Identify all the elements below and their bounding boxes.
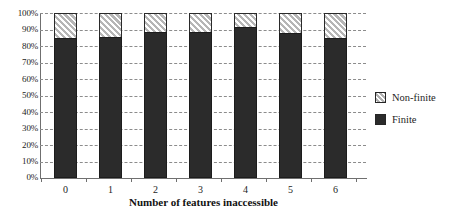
legend-label-nonfinite: Non-finite xyxy=(392,92,436,103)
y-tick-label: 40% xyxy=(2,108,38,117)
x-tick-label: 0 xyxy=(54,184,78,195)
x-tick-label: 1 xyxy=(99,184,123,195)
y-tick-label: 70% xyxy=(2,58,38,67)
bar-segment-finite[interactable] xyxy=(234,27,257,178)
bar-segment-nonfinite[interactable] xyxy=(144,13,167,33)
y-tick-label: 20% xyxy=(2,141,38,150)
x-tick-label: 3 xyxy=(189,184,213,195)
x-tick-label: 4 xyxy=(234,184,258,195)
y-tick-label: 80% xyxy=(2,42,38,51)
bar-segment-nonfinite[interactable] xyxy=(324,13,347,39)
bar-segment-finite[interactable] xyxy=(189,32,212,178)
plot-area xyxy=(40,13,366,178)
y-tick-label: 10% xyxy=(2,157,38,166)
bar-segment-nonfinite[interactable] xyxy=(99,13,122,38)
y-tick-label: 60% xyxy=(2,75,38,84)
legend-swatch-nonfinite-icon xyxy=(375,92,386,103)
x-axis-title: Number of features inaccessible xyxy=(40,196,367,208)
bar-segment-nonfinite[interactable] xyxy=(234,13,257,28)
x-tick-label: 5 xyxy=(279,184,303,195)
legend-item-finite[interactable]: Finite xyxy=(375,108,465,130)
x-tick-mark xyxy=(41,178,42,182)
x-tick-label: 2 xyxy=(144,184,168,195)
x-tick-mark xyxy=(86,178,87,182)
y-tick-label: 90% xyxy=(2,25,38,34)
x-tick-mark xyxy=(176,178,177,182)
bar-segment-finite[interactable] xyxy=(99,37,122,178)
legend-swatch-finite-icon xyxy=(375,114,386,125)
y-tick-label: 50% xyxy=(2,91,38,100)
y-tick-label: 30% xyxy=(2,124,38,133)
x-tick-mark xyxy=(131,178,132,182)
x-tick-mark xyxy=(311,178,312,182)
y-tick-label: 100% xyxy=(2,9,38,18)
y-tick-label: 0% xyxy=(2,173,38,182)
legend-label-finite: Finite xyxy=(392,114,417,125)
bar-segment-finite[interactable] xyxy=(54,38,77,178)
bar-segment-finite[interactable] xyxy=(144,32,167,178)
x-tick-mark xyxy=(221,178,222,182)
x-tick-mark xyxy=(266,178,267,182)
x-axis-line xyxy=(40,178,367,179)
bar-segment-finite[interactable] xyxy=(324,38,347,178)
stacked-bar-chart: 100% 90% 80% 70% 60% 50% 40% 30% 20% 10%… xyxy=(0,0,465,214)
legend-item-nonfinite[interactable]: Non-finite xyxy=(375,86,465,108)
bar-segment-nonfinite[interactable] xyxy=(189,13,212,33)
bar-segment-finite[interactable] xyxy=(279,33,302,178)
bar-segment-nonfinite[interactable] xyxy=(54,13,77,39)
bar-segment-nonfinite[interactable] xyxy=(279,13,302,34)
chart-legend: Non-finite Finite xyxy=(375,86,465,130)
x-tick-label: 6 xyxy=(324,184,348,195)
x-tick-mark xyxy=(356,178,357,182)
